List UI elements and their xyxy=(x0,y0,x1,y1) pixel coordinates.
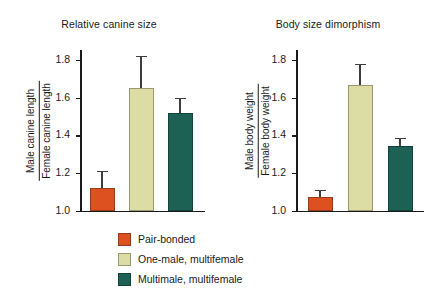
legend-item-multimale-multifemale: Multimale, multifemale xyxy=(118,269,244,289)
y-tick-1.8: 1.8 xyxy=(292,60,297,62)
error-bar-cap xyxy=(175,98,186,99)
x-axis xyxy=(296,211,424,213)
legend-swatch-icon xyxy=(118,233,131,246)
y-tick-1.6: 1.6 xyxy=(292,98,297,100)
bar-one-male-multifemale xyxy=(129,88,154,210)
y-tick-1.6: 1.6 xyxy=(76,98,81,100)
legend-item-label: One-male, multifemale xyxy=(138,253,244,265)
figure: Relative canine size Male canine length … xyxy=(0,0,437,297)
y-tick-1.0: 1.0 xyxy=(76,211,81,213)
error-bar-cap xyxy=(355,64,366,65)
legend-item-label: Pair-bonded xyxy=(138,233,195,245)
legend-swatch-icon xyxy=(118,253,131,266)
plot-area: 1.0 1.2 1.4 1.6 1.8 xyxy=(80,50,205,212)
error-bar-pair-bonded xyxy=(101,171,102,188)
bar-group-multimale-multifemale xyxy=(388,50,413,211)
y-tick-1.4: 1.4 xyxy=(76,135,81,137)
bar-group-pair-bonded xyxy=(90,50,115,211)
chart-title: Relative canine size xyxy=(0,18,218,30)
error-bar-multimale-multifemale xyxy=(179,98,180,113)
bar-group-pair-bonded xyxy=(308,50,333,211)
legend: Pair-bonded One-male, multifemale Multim… xyxy=(118,229,244,289)
bars-container xyxy=(82,50,206,211)
bar-multimale-multifemale xyxy=(388,146,413,211)
y-axis-label-denominator: Female canine length xyxy=(40,81,54,181)
bar-pair-bonded xyxy=(308,197,333,210)
bar-group-one-male-multifemale xyxy=(348,50,373,211)
error-bar-cap xyxy=(136,56,147,57)
bar-group-one-male-multifemale xyxy=(129,50,154,211)
chart-panel-relative-canine-size: Relative canine size Male canine length … xyxy=(0,0,218,225)
error-bar-one-male-multifemale xyxy=(140,56,141,88)
chart-panel-body-size-dimorphism: Body size dimorphism Male body weight Fe… xyxy=(219,0,437,225)
error-bar-one-male-multifemale xyxy=(359,64,360,86)
y-axis-label-numerator: Male canine length xyxy=(25,87,39,175)
y-axis-label-denominator: Female body weight xyxy=(259,84,273,178)
bar-multimale-multifemale xyxy=(168,113,193,211)
x-axis xyxy=(80,211,205,213)
error-bar-multimale-multifemale xyxy=(399,138,400,146)
legend-item-label: Multimale, multifemale xyxy=(138,273,242,285)
bar-pair-bonded xyxy=(90,188,115,211)
bar-group-multimale-multifemale xyxy=(168,50,193,211)
chart-title: Body size dimorphism xyxy=(219,18,437,30)
y-axis-label-numerator: Male body weight xyxy=(244,90,258,172)
error-bar-cap xyxy=(97,171,108,172)
y-tick-1.8: 1.8 xyxy=(76,60,81,62)
legend-item-pair-bonded: Pair-bonded xyxy=(118,229,244,249)
bar-one-male-multifemale xyxy=(348,85,373,210)
y-tick-1.2: 1.2 xyxy=(76,173,81,175)
plot-area: 1.0 1.2 1.4 1.6 1.8 xyxy=(296,50,424,212)
bars-container xyxy=(298,50,425,211)
legend-item-one-male-multifemale: One-male, multifemale xyxy=(118,249,244,269)
y-tick-1.0: 1.0 xyxy=(292,211,297,213)
error-bar-cap xyxy=(395,138,406,139)
y-tick-1.4: 1.4 xyxy=(292,135,297,137)
legend-swatch-icon xyxy=(118,273,131,286)
y-tick-1.2: 1.2 xyxy=(292,173,297,175)
error-bar-pair-bonded xyxy=(319,190,320,198)
error-bar-cap xyxy=(315,190,326,191)
